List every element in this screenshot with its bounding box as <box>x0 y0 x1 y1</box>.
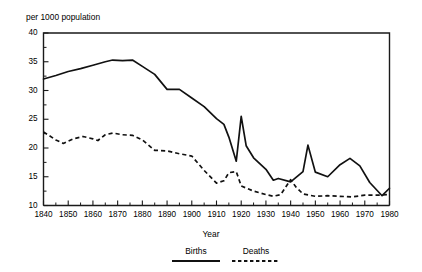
x-axis-tick-label: 1840 <box>34 210 53 219</box>
births-deaths-line-chart: per 1000 population 10152025303540 18401… <box>0 0 422 272</box>
x-axis-tick-labels: 1840185018601870188018901900191019201930… <box>34 210 399 219</box>
x-axis-tick-label: 1960 <box>331 210 350 219</box>
legend-label-deaths: Deaths <box>243 246 270 256</box>
x-axis-tick-label: 1890 <box>158 210 177 219</box>
y-axis-tick-label: 35 <box>28 57 38 66</box>
chart-title: per 1000 population <box>26 12 100 22</box>
y-axis-tick-label: 15 <box>28 172 38 181</box>
x-axis-label: Year <box>203 229 220 239</box>
legend-label-births: Births <box>185 246 206 256</box>
series-line-deaths <box>44 132 390 197</box>
x-axis-tick-label: 1900 <box>183 210 202 219</box>
x-axis-tick-label: 1850 <box>59 210 78 219</box>
y-axis-tick-label: 25 <box>28 114 38 123</box>
x-axis-tick-label: 1950 <box>306 210 325 219</box>
y-axis-tick-label: 40 <box>28 28 38 37</box>
y-axis-tick-label: 10 <box>28 201 38 210</box>
y-axis-tick-label: 30 <box>28 86 38 95</box>
x-axis-tick-label: 1870 <box>109 210 128 219</box>
x-axis-tick-label: 1910 <box>207 210 226 219</box>
x-axis-tick-label: 1930 <box>257 210 276 219</box>
chart-container: per 1000 population 10152025303540 18401… <box>0 0 422 272</box>
y-axis-tick-labels: 10152025303540 <box>28 28 38 210</box>
x-axis-tick-label: 1860 <box>84 210 103 219</box>
x-axis-tick-label: 1980 <box>380 210 399 219</box>
y-axis-ticks <box>44 33 49 206</box>
x-axis-tick-label: 1970 <box>356 210 375 219</box>
x-axis-tick-label: 1940 <box>282 210 301 219</box>
x-axis-ticks <box>44 201 390 206</box>
x-axis-tick-label: 1880 <box>133 210 152 219</box>
series-line-births <box>44 60 390 196</box>
x-axis-tick-label: 1920 <box>232 210 251 219</box>
chart-legend: Births Deaths <box>172 246 280 261</box>
y-axis-tick-label: 20 <box>28 143 38 152</box>
